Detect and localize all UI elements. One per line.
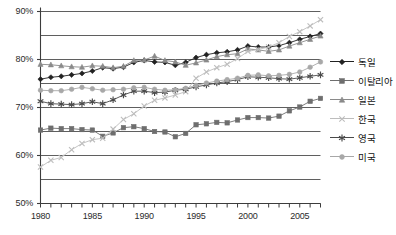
diamond-marker (59, 74, 64, 79)
square-marker (121, 125, 125, 129)
square-marker (69, 126, 73, 130)
triangle-marker (330, 94, 354, 106)
circle-marker (225, 77, 230, 82)
circle-marker (266, 74, 271, 79)
triangle-marker (152, 53, 157, 58)
x-marker-glyph (336, 113, 348, 125)
legend-label: 미국 (358, 150, 375, 164)
legend-item-한국[interactable]: 한국 (330, 109, 396, 128)
circle-marker (173, 87, 178, 92)
legend-label: 독일 (358, 55, 375, 69)
x-marker (318, 17, 323, 22)
x-marker (48, 158, 53, 163)
legend-marker (336, 132, 348, 144)
x-tick-label-1985: 1985 (75, 211, 109, 221)
square-marker (330, 75, 354, 87)
asterisk-marker (330, 132, 354, 144)
square-marker (277, 114, 281, 118)
square-marker (256, 115, 260, 119)
x-marker (214, 65, 219, 70)
circle-marker (152, 87, 157, 92)
square-marker (152, 129, 156, 133)
triangle-marker-glyph (336, 94, 348, 106)
circle-marker (246, 73, 251, 78)
x-tick-label-1995: 1995 (179, 211, 213, 221)
circle-marker (69, 87, 74, 92)
legend-marker (336, 94, 348, 106)
square-marker (49, 126, 53, 130)
y-tick-label-80: 80% (3, 54, 33, 64)
square-marker (215, 120, 219, 124)
diamond-marker (38, 77, 43, 82)
circle-marker (340, 154, 345, 159)
series-미국 (38, 60, 323, 93)
diamond-marker (90, 68, 95, 73)
x-marker (69, 147, 74, 152)
x-marker (204, 69, 209, 74)
circle-marker (287, 72, 292, 77)
legend-item-영국[interactable]: 영국 (330, 128, 396, 147)
legend-label: 이탈리아 (358, 74, 393, 88)
square-marker (142, 126, 146, 130)
legend-marker (336, 75, 348, 87)
x-tick-label-2000: 2000 (231, 211, 265, 221)
chart-legend: 독일이탈리아일본한국영국미국 (330, 52, 396, 166)
circle-marker (121, 87, 126, 92)
asterisk-marker (121, 92, 127, 99)
square-marker (246, 115, 250, 119)
square-marker (225, 121, 229, 125)
x-marker (339, 116, 344, 121)
legend-item-일본[interactable]: 일본 (330, 90, 396, 109)
square-marker (163, 130, 167, 134)
diamond-marker (204, 52, 209, 57)
legend-item-미국[interactable]: 미국 (330, 147, 396, 166)
diamond-marker-glyph (336, 56, 348, 68)
circle-marker (277, 73, 282, 78)
circle-marker (38, 88, 43, 93)
x-marker (330, 113, 354, 125)
series-한국 (38, 17, 323, 170)
y-tick-label-50: 50% (3, 198, 33, 208)
legend-marker (336, 113, 348, 125)
asterisk-marker (38, 98, 44, 105)
circle-marker (214, 79, 219, 84)
square-marker (194, 123, 198, 127)
x-marker (121, 117, 126, 122)
square-marker (173, 135, 177, 139)
circle-marker (111, 87, 116, 92)
square-marker (80, 127, 84, 131)
y-tick-label-60: 60% (3, 150, 33, 160)
square-marker (90, 128, 94, 132)
square-marker (340, 78, 345, 83)
circle-marker (49, 88, 54, 93)
square-marker (38, 128, 42, 132)
circle-marker (59, 88, 64, 93)
square-marker (266, 116, 270, 120)
square-marker (132, 125, 136, 129)
square-marker (204, 122, 208, 126)
circle-marker-glyph (336, 151, 348, 163)
x-marker (235, 56, 240, 61)
diamond-marker (152, 59, 157, 64)
x-marker (287, 34, 292, 39)
legend-marker (336, 151, 348, 163)
circle-marker (194, 83, 199, 88)
legend-item-이탈리아[interactable]: 이탈리아 (330, 71, 396, 90)
legend-marker (336, 56, 348, 68)
asterisk-marker (339, 134, 345, 141)
circle-marker (256, 73, 261, 78)
line-chart: 90%80%70%60%50% 198019851990199520002005… (0, 0, 396, 235)
square-marker (235, 118, 239, 122)
square-marker (318, 96, 322, 100)
circle-marker (235, 76, 240, 81)
x-tick-label-1980: 1980 (24, 211, 58, 221)
circle-marker (80, 85, 85, 90)
legend-item-독일[interactable]: 독일 (330, 52, 396, 71)
legend-label: 영국 (358, 131, 375, 145)
y-tick-label-90: 90% (3, 6, 33, 16)
x-marker (297, 29, 302, 34)
square-marker (59, 126, 63, 130)
circle-marker (204, 81, 209, 86)
circle-marker (163, 88, 168, 93)
circle-marker (90, 86, 95, 91)
